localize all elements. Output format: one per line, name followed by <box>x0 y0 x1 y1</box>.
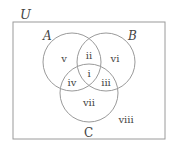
universe-rectangle <box>13 22 165 139</box>
region-iii: iii <box>101 77 111 88</box>
region-vii: vii <box>82 97 95 108</box>
region-i: i <box>87 68 90 79</box>
region-iv: iv <box>68 77 77 88</box>
set-b-label: B <box>127 29 137 43</box>
region-ii: ii <box>86 50 92 61</box>
set-a-label: A <box>42 29 52 43</box>
region-viii: viii <box>117 114 133 125</box>
set-c-label: C <box>84 126 93 140</box>
region-v: v <box>60 53 67 64</box>
venn-diagram: U A B C i ii iii iv v vi vii viii <box>0 0 175 145</box>
region-vi: vi <box>110 53 120 64</box>
universe-label: U <box>20 7 32 22</box>
